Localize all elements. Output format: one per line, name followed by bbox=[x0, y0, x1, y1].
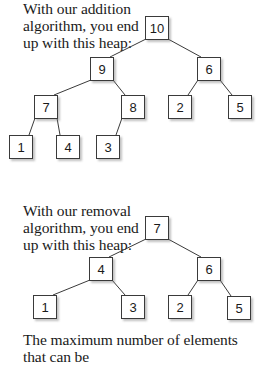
removal-heap-node-5: 5 bbox=[227, 296, 251, 320]
heap-edge bbox=[112, 280, 125, 295]
addition-heap-node-1: 1 bbox=[9, 135, 33, 159]
heap-edge bbox=[57, 118, 60, 135]
heap-edge bbox=[188, 80, 198, 95]
heap-edge bbox=[54, 80, 91, 95]
removal-heap-node-1: 1 bbox=[33, 295, 57, 319]
heap-edge bbox=[116, 118, 122, 135]
removal-heap-node-6: 6 bbox=[197, 257, 221, 281]
addition-heap-node-3: 3 bbox=[96, 135, 120, 159]
removal-heap-node-4: 4 bbox=[89, 257, 113, 281]
addition-heap-node-2: 2 bbox=[168, 95, 192, 119]
heap-edge bbox=[29, 118, 35, 135]
removal-heap-node-2: 2 bbox=[168, 295, 192, 319]
heap-edge bbox=[109, 239, 146, 257]
addition-heap-node-5: 5 bbox=[228, 95, 252, 119]
removal-heap-node-7: 7 bbox=[145, 216, 169, 240]
addition-heap-node-4: 4 bbox=[56, 135, 80, 159]
heap-edge bbox=[188, 280, 198, 295]
heap-edge bbox=[220, 280, 231, 296]
addition-heap-node-10: 10 bbox=[145, 16, 169, 40]
heap-edge bbox=[168, 39, 201, 57]
heap-edge bbox=[220, 80, 232, 95]
heap-edge bbox=[168, 239, 201, 257]
addition-heap-node-8: 8 bbox=[121, 95, 145, 119]
addition-heap-node-7: 7 bbox=[34, 95, 58, 119]
heap-edge bbox=[53, 280, 90, 295]
heap-edge bbox=[110, 39, 146, 57]
removal-heap-node-3: 3 bbox=[121, 295, 145, 319]
heap-edge bbox=[113, 80, 125, 95]
addition-heap-node-6: 6 bbox=[197, 57, 221, 81]
addition-heap-node-9: 9 bbox=[90, 57, 114, 81]
